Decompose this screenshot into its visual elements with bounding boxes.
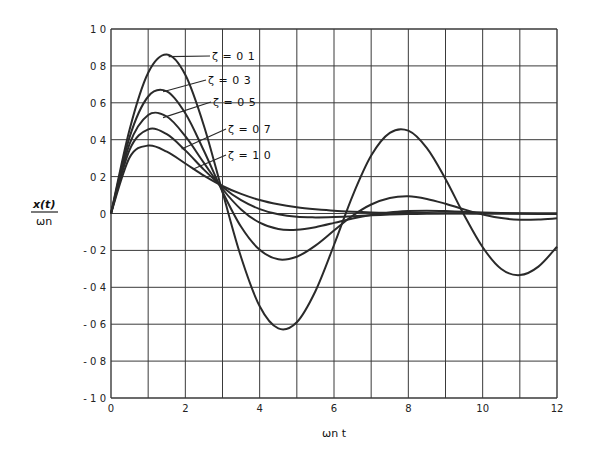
y-tick-label: - 0 2 [83, 245, 106, 256]
response-chart: 1 00 80 60 40 20- 0 2- 0 4- 0 6- 0 8- 1 … [0, 0, 589, 456]
y-tick-label: - 0 6 [83, 319, 106, 330]
y-tick-label: 0 4 [90, 135, 106, 146]
curve-label: ζ = 0 7 [228, 123, 271, 136]
y-tick-label: 0 [100, 209, 106, 220]
damping-ratio-labels: ζ = 0 1ζ = 0 3ζ = 0 5ζ = 0 7ζ = 1 0 [163, 50, 271, 169]
curve-label: ζ = 0 3 [208, 74, 251, 87]
y-axis-label: x(t) ωn [31, 198, 58, 228]
y-tick-label: 0 6 [90, 98, 106, 109]
x-tick-label: 0 [108, 403, 114, 414]
curve-label: ζ = 0 5 [213, 96, 256, 109]
x-tick-label: 6 [331, 403, 337, 414]
x-axis-ticks: 024681012 [108, 403, 564, 414]
y-tick-label: 0 8 [90, 61, 106, 72]
x-tick-label: 4 [256, 403, 262, 414]
y-tick-label: 0 2 [90, 172, 106, 183]
label-leader-line [169, 56, 210, 57]
label-leader-line [163, 80, 206, 92]
curve-label: ζ = 1 0 [228, 149, 271, 162]
y-axis-label-denominator: ωn [36, 215, 52, 228]
x-tick-label: 2 [182, 403, 188, 414]
y-axis-ticks: 1 00 80 60 40 20- 0 2- 0 4- 0 6- 0 8- 1 … [83, 24, 106, 404]
y-tick-label: - 1 0 [83, 393, 106, 404]
x-tick-label: 8 [405, 403, 411, 414]
curve-label: ζ = 0 1 [212, 50, 255, 63]
y-tick-label: - 0 4 [83, 282, 106, 293]
y-axis-label-numerator: x(t) [32, 198, 55, 211]
x-axis-label: ωn t [322, 427, 347, 440]
x-tick-label: 12 [551, 403, 564, 414]
y-tick-label: - 0 8 [83, 356, 106, 367]
x-tick-label: 10 [476, 403, 489, 414]
y-tick-label: 1 0 [90, 24, 106, 35]
